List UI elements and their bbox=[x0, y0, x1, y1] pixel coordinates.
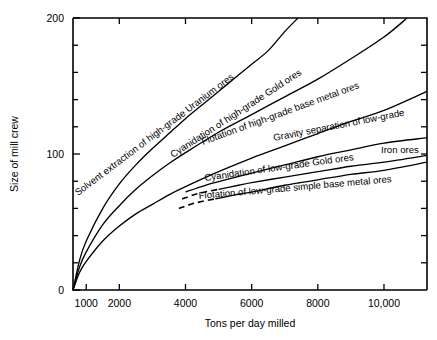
series-annotations: Solvent extraction of high-grade Uranium… bbox=[73, 66, 419, 201]
y-axis-tick-labels: 0100200 bbox=[46, 12, 64, 296]
x-tick-label: 6000 bbox=[240, 297, 264, 309]
y-axis-title: Size of mill crew bbox=[8, 116, 20, 192]
x-tick-label: 1000 bbox=[75, 297, 99, 309]
x-axis-tick-labels: 1000200040006000800010,000 bbox=[75, 297, 401, 309]
x-axis-title: Tons per day milled bbox=[205, 317, 296, 329]
chart-page: 0100200 1000200040006000800010,000 Solve… bbox=[0, 0, 437, 340]
series-label-4: Iron ores bbox=[381, 144, 419, 155]
x-axis-ticks bbox=[86, 284, 384, 290]
x-tick-label: 8000 bbox=[306, 297, 330, 309]
x-tick-label: 2000 bbox=[108, 297, 132, 309]
y-tick-label: 100 bbox=[46, 148, 64, 160]
x-tick-label: 10,000 bbox=[368, 297, 400, 309]
y-tick-label: 0 bbox=[58, 284, 64, 296]
x-tick-label: 4000 bbox=[174, 297, 198, 309]
top-axis-ticks bbox=[119, 18, 384, 24]
y-tick-label: 200 bbox=[46, 12, 64, 24]
curve-dashed-5 bbox=[179, 199, 215, 209]
mill-crew-chart: 0100200 1000200040006000800010,000 Solve… bbox=[0, 0, 437, 340]
